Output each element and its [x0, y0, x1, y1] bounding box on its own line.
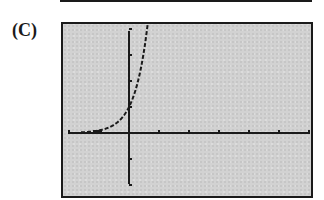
exponential-curve	[81, 24, 148, 132]
curve-asymptote-overlap	[93, 130, 102, 134]
plot-area	[63, 24, 311, 196]
previous-figure-frame-edge	[60, 0, 312, 2]
calculator-screen	[61, 22, 313, 198]
figure-label: (C)	[12, 20, 37, 41]
